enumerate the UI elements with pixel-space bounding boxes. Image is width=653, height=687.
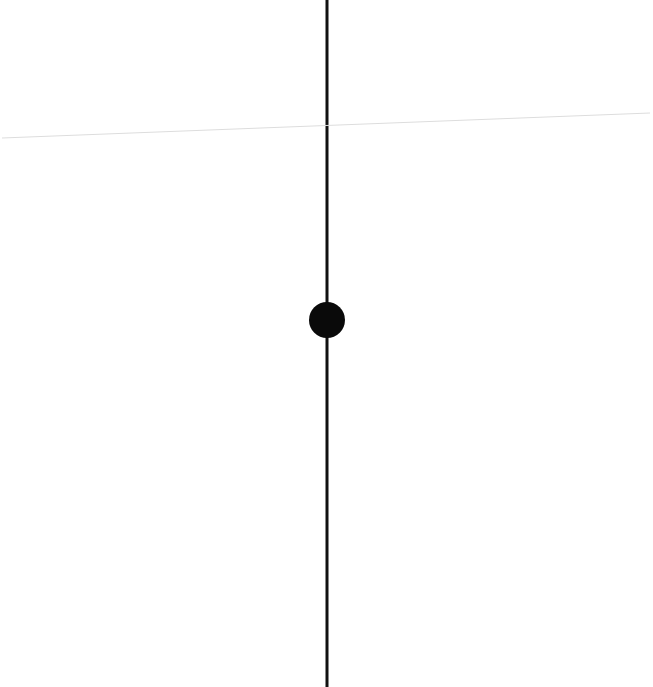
diagram-canvas [0,0,653,687]
point-marker [309,302,345,338]
